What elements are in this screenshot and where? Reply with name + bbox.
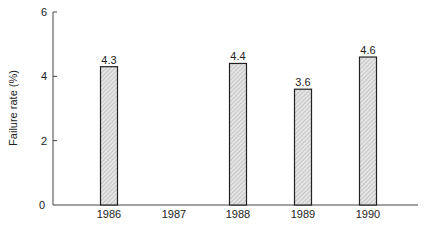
bar-1988 — [230, 63, 247, 205]
x-tick-label: 1987 — [162, 208, 186, 220]
bar-1989 — [295, 89, 312, 205]
y-tick-label: 2 — [41, 135, 47, 147]
y-axis-title: Failure rate (%) — [7, 70, 19, 146]
x-axis: 19861987198819891990 — [53, 205, 418, 220]
bars: 4.34.43.64.6 — [101, 44, 377, 205]
bar-1986 — [101, 67, 118, 205]
x-tick-label: 1986 — [97, 208, 121, 220]
y-tick-label: 0 — [39, 199, 45, 211]
y-axis: 0246 — [39, 6, 57, 211]
bar-1990 — [360, 57, 377, 205]
bar-value-label: 4.6 — [360, 44, 375, 56]
x-tick-label: 1988 — [226, 208, 250, 220]
bar-value-label: 4.3 — [101, 54, 116, 66]
bar-chart: 0246 19861987198819891990 Failure rate (… — [0, 0, 430, 226]
x-tick-label: 1989 — [291, 208, 315, 220]
bar-value-label: 3.6 — [295, 76, 310, 88]
bar-value-label: 4.4 — [230, 50, 245, 62]
x-tick-label: 1990 — [356, 208, 380, 220]
y-tick-label: 4 — [41, 70, 47, 82]
y-tick-label: 6 — [41, 6, 47, 18]
